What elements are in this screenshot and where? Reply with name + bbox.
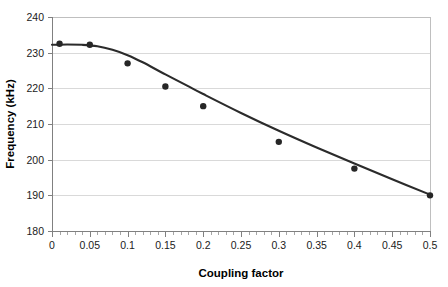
x-tick-label: 0.35 bbox=[306, 239, 327, 251]
x-axis-tick-labels: 00.050.10.150.20.250.30.350.40.450.5 bbox=[49, 239, 437, 251]
data-point bbox=[351, 165, 357, 171]
frequency-vs-coupling-factor-chart: 180190200210220230240 00.050.10.150.20.2… bbox=[0, 0, 448, 287]
y-tick-label: 200 bbox=[26, 154, 44, 166]
data-point bbox=[200, 103, 206, 109]
chart-container: 180190200210220230240 00.050.10.150.20.2… bbox=[0, 0, 448, 287]
data-point bbox=[124, 60, 130, 66]
y-tick-label: 190 bbox=[26, 189, 44, 201]
y-tick-label: 220 bbox=[26, 82, 44, 94]
x-tick-label: 0.3 bbox=[271, 239, 286, 251]
y-tick-label: 180 bbox=[26, 225, 44, 237]
data-point bbox=[276, 139, 282, 145]
data-point bbox=[427, 192, 433, 198]
y-axis-tick-labels: 180190200210220230240 bbox=[26, 11, 44, 237]
data-point bbox=[87, 42, 93, 48]
x-tick-label: 0.2 bbox=[196, 239, 211, 251]
y-axis-title: Frequency (kHz) bbox=[4, 79, 16, 169]
y-tick-label: 230 bbox=[26, 47, 44, 59]
x-tick-label: 0 bbox=[49, 239, 55, 251]
x-tick-label: 0.15 bbox=[155, 239, 176, 251]
x-tick-label: 0.05 bbox=[80, 239, 101, 251]
x-tick-label: 0.4 bbox=[347, 239, 362, 251]
data-point bbox=[56, 41, 62, 47]
y-tick-label: 210 bbox=[26, 118, 44, 130]
x-axis-title: Coupling factor bbox=[199, 267, 284, 279]
x-tick-label: 0.5 bbox=[423, 239, 438, 251]
x-tick-label: 0.45 bbox=[382, 239, 403, 251]
x-tick-label: 0.1 bbox=[120, 239, 135, 251]
data-point bbox=[162, 83, 168, 89]
y-tick-label: 240 bbox=[26, 11, 44, 23]
x-tick-label: 0.25 bbox=[231, 239, 252, 251]
